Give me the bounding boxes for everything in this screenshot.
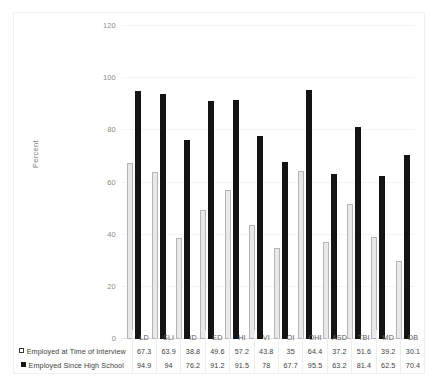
bar-group [220,26,244,339]
bar [371,237,377,339]
y-tick-label-40: 40 [107,229,116,238]
bar [208,101,214,339]
column-header: OHI [303,330,327,344]
bar [379,176,385,339]
bar [160,94,166,339]
bar-group [342,26,366,339]
table-cell: 81.4 [352,358,376,372]
table-corner-cell [13,330,132,344]
bar [257,136,263,339]
table-cell: 70.4 [400,358,425,372]
column-header: DB [400,330,425,344]
column-header: ID [181,330,205,344]
bar [135,91,141,339]
table-cell: 62.5 [376,358,400,372]
bar-group [146,26,170,339]
bar [127,163,133,339]
bar-group [171,26,195,339]
bar [347,204,353,339]
chart-page: Percent 020406080100120 LDSLIIDEDHIVIOIO… [0,0,437,387]
table-row: LDSLIIDEDHIVIOIOHIASDTBIMDDB [13,330,425,344]
table-cell: 37.2 [327,344,351,358]
y-tick-label-100: 100 [103,73,116,82]
bar-group [391,26,415,339]
bar-group [195,26,219,339]
column-header: LD [132,330,156,344]
bar-group [293,26,317,339]
column-header: ASD [327,330,351,344]
bar [323,242,329,339]
y-tick-label-20: 20 [107,281,116,290]
column-header: OI [278,330,302,344]
data-table-body: LDSLIIDEDHIVIOIOHIASDTBIMDDBEmployed at … [13,330,425,372]
y-axis-title: Percent [31,140,40,168]
table-cell: 63.2 [327,358,351,372]
table-row: Employed at Time of Interview67.363.938.… [13,344,425,358]
legend-entry[interactable]: Employed Since High School [13,358,132,372]
table-cell: 67.7 [278,358,302,372]
y-tick-label-80: 80 [107,125,116,134]
chart-frame: Percent 020406080100120 [13,12,425,374]
bar-groups [122,26,415,339]
bar [200,210,206,339]
bar [331,174,337,339]
bar [274,248,280,339]
column-header: TBI [352,330,376,344]
table-cell: 91.5 [230,358,254,372]
bar [176,238,182,339]
open-square-icon [19,348,24,353]
column-header: ED [205,330,229,344]
bar [233,100,239,339]
table-cell: 63.9 [156,344,180,358]
table-cell: 35 [278,344,302,358]
bar-group [244,26,268,339]
bar [404,155,410,339]
legend-entry[interactable]: Employed at Time of Interview [13,344,132,358]
bar [355,127,361,339]
table-cell: 67.3 [132,344,156,358]
bar [249,225,255,339]
column-header: MD [376,330,400,344]
table-cell: 51.6 [352,344,376,358]
plot-area: 020406080100120 [122,26,415,339]
bar [298,171,304,339]
table-cell: 91.2 [205,358,229,372]
bar-group [269,26,293,339]
legend-label: Employed Since High School [29,361,124,370]
data-table-area: LDSLIIDEDHIVIOIOHIASDTBIMDDBEmployed at … [13,330,425,378]
bar [396,261,402,340]
table-cell: 95.5 [303,358,327,372]
table-cell: 30.1 [400,344,425,358]
bar [282,162,288,339]
column-header: VI [254,330,278,344]
table-cell: 38.8 [181,344,205,358]
bar-group [122,26,146,339]
y-tick-label-60: 60 [107,177,116,186]
data-table: LDSLIIDEDHIVIOIOHIASDTBIMDDBEmployed at … [13,330,425,372]
table-cell: 57.2 [230,344,254,358]
legend-label: Employed at Time of Interview [27,347,126,356]
table-cell: 39.2 [376,344,400,358]
table-cell: 94 [156,358,180,372]
column-header: SLI [156,330,180,344]
filled-square-icon [21,362,26,367]
table-cell: 49.6 [205,344,229,358]
table-cell: 78 [254,358,278,372]
bar [184,140,190,339]
column-header: HI [230,330,254,344]
table-cell: 43.8 [254,344,278,358]
bar [306,90,312,339]
bar-group [317,26,341,339]
table-cell: 94.9 [132,358,156,372]
clipped-page-text [0,0,437,8]
table-cell: 64.4 [303,344,327,358]
y-tick-label-120: 120 [103,21,116,30]
table-cell: 76.2 [181,358,205,372]
bar [225,190,231,339]
table-row: Employed Since High School94.99476.291.2… [13,358,425,372]
bar [152,172,158,339]
bar-group [366,26,390,339]
